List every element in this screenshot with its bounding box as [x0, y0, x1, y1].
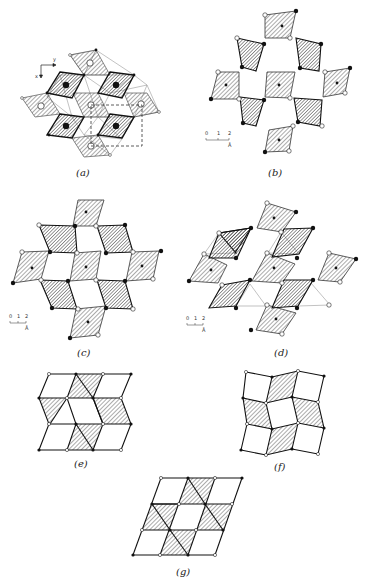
scale-unit: Å	[228, 142, 232, 148]
scale-tick-1: 1	[194, 315, 197, 321]
panel-b: 0 1 2 Å (b)	[205, 9, 352, 178]
panel-label-d: (d)	[274, 347, 288, 358]
scale-bar	[206, 138, 229, 140]
panel-g: (g)	[131, 476, 243, 577]
panel-e: (e)	[37, 372, 132, 469]
panel-label-e: (e)	[74, 458, 88, 469]
scale-bar	[10, 321, 26, 323]
panel-label-c: (c)	[77, 347, 91, 358]
scale-tick-2: 2	[25, 313, 28, 319]
panel-label-b: (b)	[268, 167, 282, 178]
panel-f: (f)	[239, 369, 325, 472]
panel-label-g: (g)	[176, 566, 190, 577]
panel-label-a: (a)	[76, 167, 90, 178]
panel-a: y x (a)	[21, 49, 161, 178]
axes-icon	[40, 64, 57, 79]
panel-c: 0 1 2 Å (c)	[9, 200, 163, 358]
scale-tick-1: 1	[17, 313, 20, 319]
scale-tick-0: 0	[186, 315, 189, 321]
axis-label-x: x	[35, 73, 38, 79]
axis-label-y: y	[53, 56, 56, 63]
scale-tick-2: 2	[202, 315, 205, 321]
scale-tick-1: 1	[217, 130, 220, 136]
scale-tick-0: 0	[205, 130, 208, 136]
figure-canvas: y x (a)	[0, 0, 369, 582]
scale-unit: Å	[25, 325, 29, 331]
scale-bar	[187, 323, 203, 325]
panel-d: 0 1 2 Å (d)	[186, 201, 358, 358]
scale-unit: Å	[202, 327, 206, 333]
panel-label-f: (f)	[274, 461, 286, 472]
scale-tick-0: 0	[9, 313, 12, 319]
scale-tick-2: 2	[228, 130, 231, 136]
